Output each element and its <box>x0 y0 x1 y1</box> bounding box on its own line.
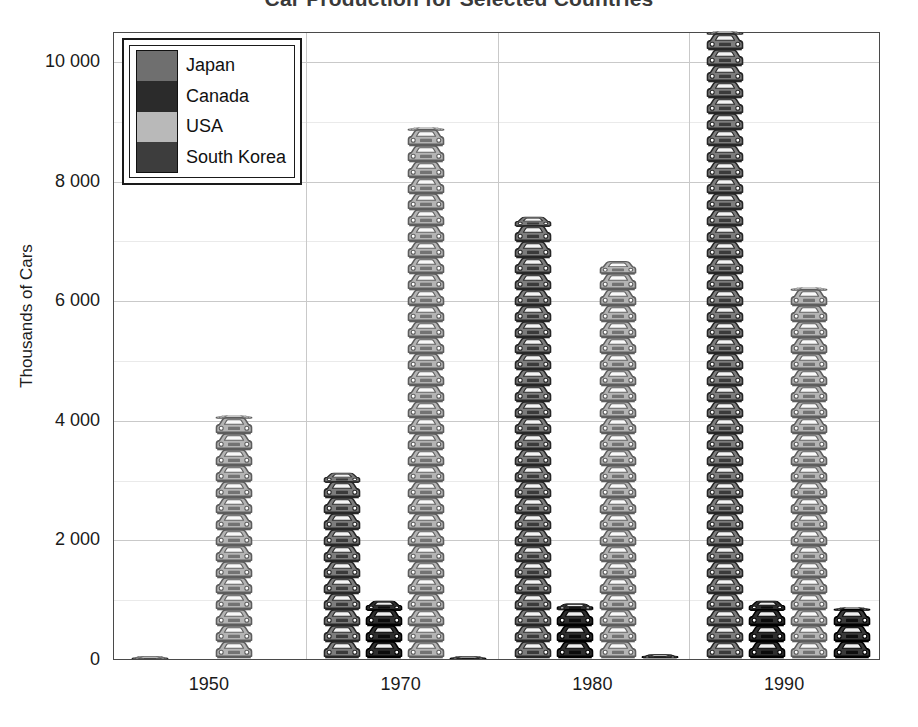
series-stack <box>407 130 445 659</box>
series-stack <box>514 219 552 659</box>
legend-swatch <box>137 142 177 172</box>
car-icon <box>514 640 552 659</box>
legend-label: South Korea <box>186 142 294 173</box>
legend-swatches <box>136 50 178 173</box>
series-stack <box>790 290 828 659</box>
y-tick-label: 6 000 <box>0 290 100 311</box>
legend-swatch <box>137 81 177 111</box>
y-tick-label: 4 000 <box>0 409 100 430</box>
category-separator <box>689 33 690 659</box>
series-stack <box>748 603 786 659</box>
car-icon <box>215 640 253 659</box>
x-tick-label: 1950 <box>189 674 229 695</box>
car-icon <box>365 640 403 659</box>
car-production-chart: Car Production for Selected Countries Th… <box>0 0 918 727</box>
y-tick-label: 10 000 <box>0 51 100 72</box>
car-icon <box>748 640 786 659</box>
y-tick-label: 0 <box>0 649 100 670</box>
category-separator <box>306 33 307 659</box>
car-icon <box>407 640 445 659</box>
legend-inner: JapanCanadaUSASouth Korea <box>129 45 295 178</box>
y-tick-label: 2 000 <box>0 529 100 550</box>
legend-swatch <box>137 112 177 142</box>
series-stack <box>599 263 637 659</box>
category-separator <box>498 33 499 659</box>
series-stack <box>365 603 403 659</box>
car-icon <box>833 640 871 659</box>
legend-label: Canada <box>186 81 294 112</box>
series-stack <box>641 657 679 659</box>
legend-swatch <box>137 51 177 81</box>
car-icon <box>599 640 637 659</box>
legend-labels: JapanCanadaUSASouth Korea <box>178 50 294 173</box>
series-stack <box>706 34 744 659</box>
series-stack <box>215 418 253 659</box>
series-stack <box>833 610 871 659</box>
chart-title: Car Production for Selected Countries <box>0 0 918 11</box>
gridline-minor <box>114 361 879 362</box>
legend-label: Japan <box>186 50 294 81</box>
gridline-minor <box>114 241 879 242</box>
car-icon <box>706 640 744 659</box>
series-stack <box>556 606 594 659</box>
legend-label: USA <box>186 112 294 143</box>
series-stack <box>323 475 361 659</box>
car-icon-partial <box>449 656 487 659</box>
car-icon-partial <box>131 656 169 659</box>
x-tick-label: 1970 <box>381 674 421 695</box>
gridline-major <box>114 301 879 302</box>
legend: JapanCanadaUSASouth Korea <box>122 38 302 185</box>
x-tick-label: 1990 <box>764 674 804 695</box>
car-icon <box>323 640 361 659</box>
car-icon <box>556 640 594 659</box>
car-icon <box>790 640 828 659</box>
y-axis-title: Thousands of Cars <box>17 196 37 436</box>
x-tick-label: 1980 <box>572 674 612 695</box>
car-icon-partial <box>641 654 679 659</box>
y-tick-label: 8 000 <box>0 170 100 191</box>
